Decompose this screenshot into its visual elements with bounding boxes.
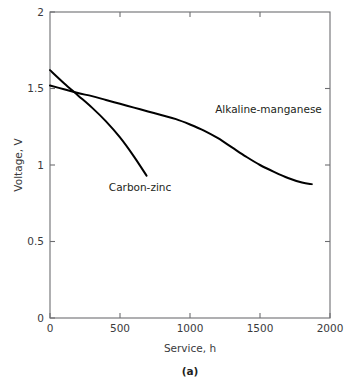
- x-axis-tick-labels: 0500100015002000: [47, 322, 344, 334]
- y-tick-label-1: 1: [37, 159, 44, 171]
- figure-caption: (a): [182, 365, 199, 377]
- y-axis-ticks-right: [325, 89, 330, 242]
- y-axis-title: Voltage, V: [12, 138, 24, 192]
- y-tick-label-0: 0: [37, 312, 44, 324]
- y-axis-tick-labels: 00.511.52: [27, 6, 44, 324]
- y-axis-ticks-left: [50, 12, 55, 318]
- x-tick-label-1000: 1000: [177, 322, 204, 334]
- x-axis-ticks-bottom: [50, 313, 330, 318]
- y-tick-label-1.5: 1.5: [27, 82, 44, 94]
- y-tick-label-0.5: 0.5: [27, 235, 44, 247]
- chart-svg: 0500100015002000 00.511.52 Alkaline-mang…: [0, 0, 352, 384]
- x-axis-ticks-top: [120, 12, 260, 17]
- series-line-alkaline-manganese: [50, 85, 312, 184]
- x-axis-title: Service, h: [164, 342, 216, 354]
- series-paths-group: [50, 70, 312, 184]
- x-tick-label-2000: 2000: [317, 322, 344, 334]
- x-tick-label-0: 0: [47, 322, 54, 334]
- series-label-carbon-zinc: Carbon-zinc: [109, 181, 172, 193]
- x-tick-label-1500: 1500: [247, 322, 274, 334]
- y-tick-label-2: 2: [37, 6, 44, 18]
- plot-frame: [50, 12, 330, 318]
- figure-container: 0500100015002000 00.511.52 Alkaline-mang…: [0, 0, 352, 384]
- x-tick-label-500: 500: [110, 322, 130, 334]
- series-label-alkaline-manganese: Alkaline-manganese: [215, 103, 322, 115]
- series-line-carbon-zinc: [50, 70, 147, 176]
